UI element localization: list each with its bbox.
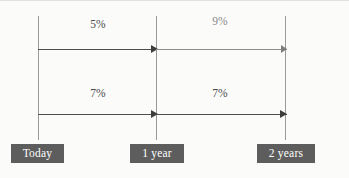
arrow-shaft [156,114,287,115]
arrow-shaft [156,49,287,50]
arrow-head-icon [281,45,287,53]
rate-label-top-left: 5% [58,18,138,30]
two-years-axis-line [285,16,286,140]
today-axis-line [38,16,39,140]
arrow-shaft [38,49,158,50]
milestone-chip-today: Today [11,144,64,163]
rate-label-top-right: 9% [180,15,260,27]
arrow-shaft [38,114,158,115]
arrow-1year-to-2years-bottom [156,109,287,120]
arrow-today-to-1year-top [38,44,158,55]
rate-timeline-diagram: 5% 9% 7% 7% Today 1 year 2 years [0,0,349,178]
rate-label-bottom-left: 7% [58,87,138,99]
arrow-today-to-1year-bottom [38,109,158,120]
arrow-1year-to-2years-top [156,44,287,55]
one-year-axis-line [156,16,157,140]
rate-label-bottom-right: 7% [180,87,260,99]
milestone-chip-two-years: 2 years [257,144,315,163]
milestone-chip-one-year: 1 year [130,144,184,163]
arrow-head-icon [280,110,287,118]
top-divider [0,0,349,1]
